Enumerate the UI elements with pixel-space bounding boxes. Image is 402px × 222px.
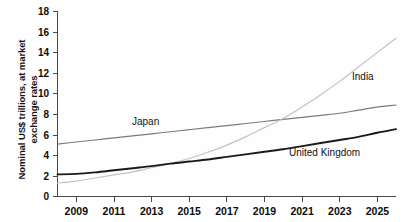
chart-figure: Nominal US$ trillions, at market exchang…: [0, 0, 402, 222]
y-tick-label: 18: [38, 6, 50, 17]
y-tick-label: 4: [43, 150, 49, 161]
y-tick-label: 0: [43, 191, 49, 202]
y-tick-label: 14: [38, 47, 50, 58]
series-annotations: Japan India United Kingdom: [132, 71, 374, 158]
x-tick-label: 2021: [290, 205, 314, 217]
x-tick-label: 2017: [215, 205, 239, 217]
y-axis-ticks: 18 16 14 12 10 8 6 4 2 0: [38, 6, 58, 202]
series-lines: [58, 38, 397, 183]
y-tick-label: 2: [43, 171, 49, 182]
x-tick-label: 2019: [253, 205, 277, 217]
y-tick-label: 8: [43, 109, 49, 120]
x-tick-label: 2023: [328, 205, 352, 217]
series-label-united-kingdom: United Kingdom: [289, 147, 360, 158]
y-tick-label: 10: [38, 88, 50, 99]
series-label-japan: Japan: [132, 116, 159, 127]
y-tick-label: 16: [38, 27, 50, 38]
x-tick-label: 2011: [103, 205, 126, 217]
series-label-india: India: [352, 71, 374, 82]
series-line-india: [58, 38, 397, 183]
y-tick-label: 12: [38, 68, 50, 79]
y-tick-label: 6: [43, 130, 49, 141]
x-tick-label: 2015: [178, 205, 202, 217]
x-tick-label: 2013: [140, 205, 164, 217]
x-axis-ticks: 2009 2011 2013 2015 2017 2019 2021 2023 …: [65, 197, 390, 218]
plot-area: 18 16 14 12 10 8 6 4 2 0 2009 2011 2013 …: [0, 0, 402, 222]
x-tick-label: 2009: [65, 205, 89, 217]
x-tick-label: 2025: [366, 205, 390, 217]
